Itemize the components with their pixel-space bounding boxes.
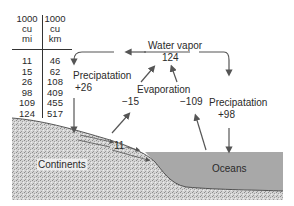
vapor-transport-arrows xyxy=(74,52,229,150)
precipitation-ocean-label: Precipatation xyxy=(209,97,267,108)
table-values-mi: 11 15 26 98 109 124 xyxy=(14,56,40,119)
precipitation-land-value: +26 xyxy=(75,82,92,93)
water-vapor-value: 124 xyxy=(162,52,179,63)
table-column-mi: 1000 cu mi xyxy=(14,14,40,44)
table-divider-horizontal xyxy=(12,49,72,50)
precipitation-ocean-value: +98 xyxy=(218,109,235,120)
evaporation-label: Evaporation xyxy=(137,84,190,95)
table-values-km: 46 62 108 409 455 517 xyxy=(42,56,68,119)
table-divider-vertical xyxy=(42,15,43,118)
oceans-label: Oceans xyxy=(212,163,246,174)
precipitation-land-label: Precipatation xyxy=(73,70,131,81)
continents-label: Continents xyxy=(37,159,87,170)
evaporation-ocean-value: −109 xyxy=(180,96,203,107)
water-vapor-label: Water vapor xyxy=(148,40,202,51)
runoff-value: 11 xyxy=(114,140,124,151)
evaporation-land-value: −15 xyxy=(122,96,139,107)
table-column-km: 1000 cu km xyxy=(42,14,68,44)
